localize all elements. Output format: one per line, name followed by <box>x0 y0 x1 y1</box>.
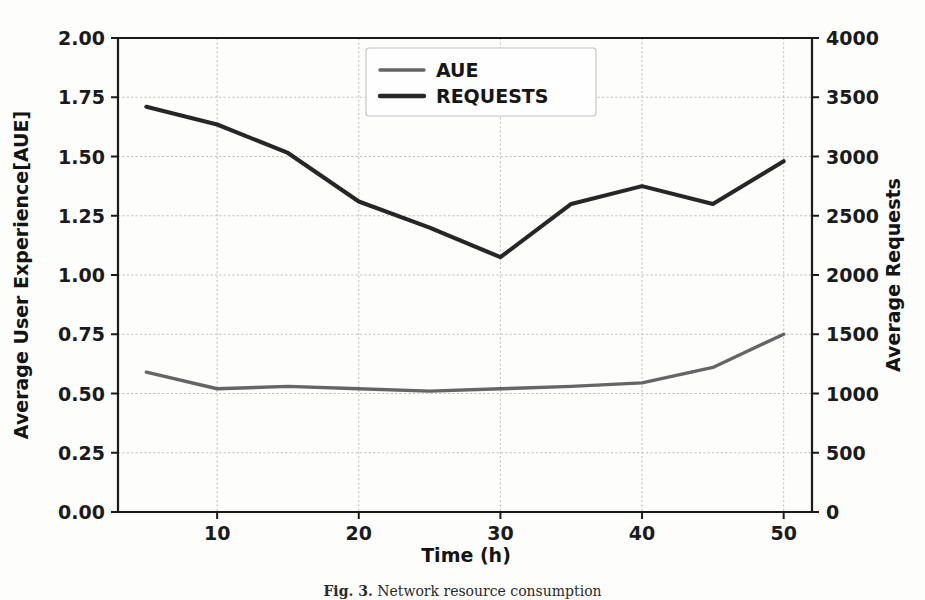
legend-label-aue[interactable]: AUE <box>436 59 479 81</box>
legend-label-requests[interactable]: REQUESTS <box>436 85 549 107</box>
series-lines <box>146 107 783 391</box>
figure-caption: Fig. 3. Network resource consumption <box>0 583 925 600</box>
series-line-requests <box>146 107 783 258</box>
y2-tick-label: 2000 <box>826 264 879 286</box>
x-tick-label: 20 <box>346 522 372 544</box>
y2-axis-tick-labels: 05001000150020002500300035004000 <box>826 27 879 523</box>
y-tick-label: 1.50 <box>58 146 105 168</box>
y2-tick-label: 1000 <box>826 383 879 405</box>
figure-caption-text: Network resource consumption <box>377 583 601 599</box>
dual-axis-line-chart: 0.000.250.500.751.001.251.501.752.00 050… <box>0 0 925 600</box>
y-tick-label: 1.00 <box>58 264 105 286</box>
y-tick-label: 2.00 <box>58 27 105 49</box>
figure-container: 0.000.250.500.751.001.251.501.752.00 050… <box>0 0 925 600</box>
y-axis-tick-labels: 0.000.250.500.751.001.251.501.752.00 <box>58 27 105 523</box>
x-axis-tick-labels: 1020304050 <box>204 522 797 544</box>
y-tick-label: 0.25 <box>58 442 105 464</box>
y2-tick-label: 1500 <box>826 323 879 345</box>
y-tick-label: 0.00 <box>58 501 105 523</box>
y2-axis-title: Average Requests <box>882 178 904 372</box>
x-tick-label: 30 <box>487 522 513 544</box>
y-tick-label: 0.50 <box>58 383 105 405</box>
series-line-aue <box>146 334 783 391</box>
y-tick-label: 1.25 <box>58 205 105 227</box>
x-axis-title: Time (h) <box>421 544 511 566</box>
y2-tick-label: 0 <box>826 501 839 523</box>
y2-tick-label: 3500 <box>826 86 879 108</box>
x-tick-label: 50 <box>770 522 796 544</box>
y2-tick-label: 2500 <box>826 205 879 227</box>
y2-tick-label: 500 <box>826 442 866 464</box>
x-tick-label: 10 <box>204 522 230 544</box>
y-tick-label: 0.75 <box>58 323 105 345</box>
figure-caption-label: Fig. 3. <box>323 583 372 599</box>
chart-legend[interactable]: AUEREQUESTS <box>366 48 596 116</box>
y2-tick-label: 4000 <box>826 27 879 49</box>
y-tick-label: 1.75 <box>58 86 105 108</box>
y2-tick-label: 3000 <box>826 146 879 168</box>
x-tick-label: 40 <box>629 522 655 544</box>
y-axis-title: Average User Experience[AUE] <box>10 111 32 439</box>
